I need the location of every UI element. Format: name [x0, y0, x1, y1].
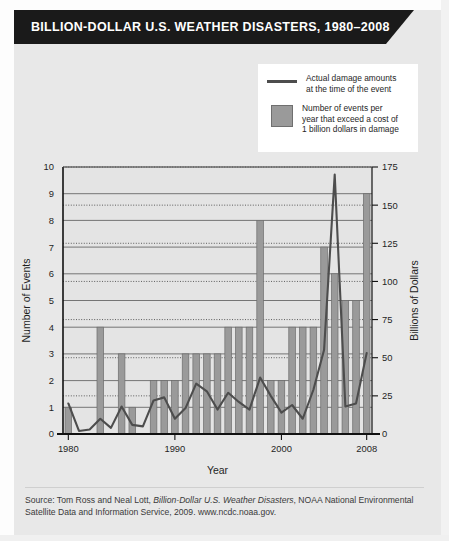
- y-tick-label-left: 9: [49, 188, 54, 199]
- bar: [214, 354, 221, 434]
- bar: [118, 354, 125, 434]
- bar: [257, 220, 264, 434]
- bar: [289, 327, 296, 434]
- bar: [236, 327, 243, 434]
- source-prefix: Source: Tom Ross and Neal Lott,: [25, 495, 153, 505]
- y-tick-label-right: 100: [382, 276, 398, 287]
- y-tick-label-left: 7: [49, 242, 54, 253]
- bar: [225, 327, 232, 434]
- chart-svg: 0123456789100255075100125150175198019902…: [0, 0, 449, 541]
- y-tick-label-left: 8: [49, 215, 54, 226]
- bar: [353, 301, 360, 435]
- y-tick-label-left: 2: [49, 375, 54, 386]
- y-axis-title-right: Billions of Dollars: [408, 260, 420, 341]
- x-tick-label: 1980: [58, 443, 79, 454]
- bar: [267, 381, 274, 434]
- bar: [363, 194, 370, 434]
- source-note: Source: Tom Ross and Neal Lott, Billion-…: [25, 494, 425, 519]
- figure-container: BILLION-DOLLAR U.S. WEATHER DISASTERS, 1…: [0, 0, 449, 541]
- y-axis-title-left: Number of Events: [20, 258, 32, 342]
- y-tick-label-right: 125: [382, 238, 398, 249]
- y-tick-label-left: 10: [44, 161, 54, 172]
- y-tick-label-left: 3: [49, 348, 54, 359]
- y-tick-label-left: 1: [49, 402, 54, 413]
- y-tick-label-right: 25: [382, 390, 392, 401]
- y-tick-label-right: 0: [382, 428, 387, 439]
- x-tick-label: 2008: [356, 443, 377, 454]
- y-tick-label-right: 50: [382, 352, 392, 363]
- y-tick-label-left: 5: [49, 295, 54, 306]
- x-tick-label: 2000: [271, 443, 292, 454]
- bar: [246, 327, 253, 434]
- y-tick-label-left: 6: [49, 268, 54, 279]
- y-tick-label-left: 4: [49, 322, 54, 333]
- bar: [161, 381, 168, 434]
- y-tick-label-left: 0: [49, 428, 54, 439]
- x-tick-label: 1990: [164, 443, 185, 454]
- source-divider: [25, 487, 424, 488]
- y-tick-label-right: 175: [382, 161, 398, 172]
- bar: [182, 354, 189, 434]
- y-tick-label-right: 150: [382, 200, 398, 211]
- y-tick-label-right: 75: [382, 314, 392, 325]
- chart-area: 0123456789100255075100125150175198019902…: [0, 0, 449, 541]
- bar: [193, 354, 200, 434]
- x-axis-title: Year: [207, 464, 229, 476]
- bar: [172, 381, 179, 434]
- bar: [331, 274, 338, 434]
- source-italic-title: Billion-Dollar U.S. Weather Disasters: [153, 495, 293, 505]
